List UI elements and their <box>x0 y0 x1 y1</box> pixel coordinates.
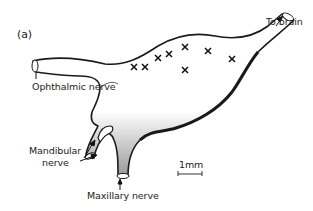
panel-label: (a) <box>17 29 32 40</box>
trigeminal-ganglion-diagram: (a) To brain Ophthalmic nerve Mandibular… <box>0 0 313 211</box>
to-brain-label: To brain <box>266 17 303 27</box>
scale-bar <box>178 171 202 176</box>
ophthalmic-nerve-label: Ophthalmic nerve <box>32 82 116 92</box>
maxillary-nerve-label: Maxillary nerve <box>87 191 159 201</box>
scale-label: 1mm <box>179 160 203 170</box>
maxillary-cut-end <box>117 173 129 178</box>
mandibular-nerve-label-line2: nerve <box>42 158 69 168</box>
ophthalmic-cut-end <box>32 60 38 72</box>
mandibular-nerve-label-line1: Mandibular <box>29 146 81 156</box>
ganglion-drawing <box>0 0 313 211</box>
